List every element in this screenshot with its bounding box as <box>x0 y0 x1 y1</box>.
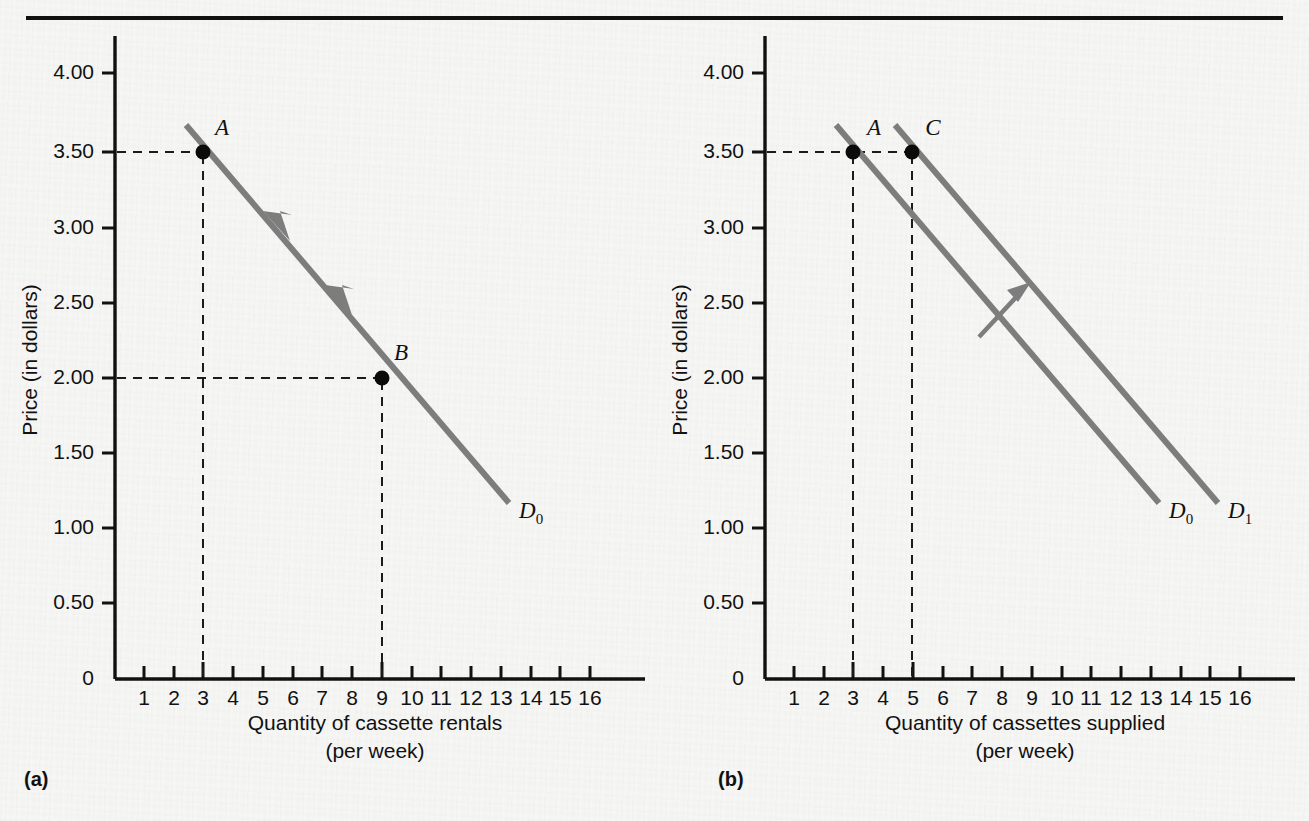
panel-a-guides <box>117 152 382 676</box>
panel-a-x-ticks: 1 2 3 4 5 6 7 8 9 10 11 12 13 1 <box>138 662 602 709</box>
panel-a-ytick-1.50: 1.50 <box>53 440 94 463</box>
panel-b-ytick-1.50: 1.50 <box>703 440 744 463</box>
panel-a-ytick-4.00: 4.00 <box>53 60 94 83</box>
panel-b-y-ticks: 4.00 3.50 3.00 2.50 2.00 1.50 1.00 0.50 … <box>703 60 765 689</box>
panel-a-ytick-3.00: 3.00 <box>53 215 94 238</box>
panel-b-xtick-6: 6 <box>937 686 949 709</box>
panel-a-ytick-2.00: 2.00 <box>53 365 94 388</box>
panel-a-xtick-14: 14 <box>519 686 543 709</box>
panel-b-xtick-11: 11 <box>1080 686 1102 709</box>
panel-b-x-axis-title-line2: (per week) <box>975 739 1074 762</box>
panel-a-x-axis-title-line2: (per week) <box>325 739 424 762</box>
panel-b-ytick-zero: 0 <box>732 666 744 689</box>
panel-a-xtick-4: 4 <box>227 686 239 709</box>
panel-b-xtick-8: 8 <box>996 686 1008 709</box>
panel-a-xtick-16: 16 <box>578 686 601 709</box>
panel-a-xtick-9: 9 <box>376 686 388 709</box>
panel-a-point-a-dot <box>196 145 211 160</box>
panel-b-xtick-12: 12 <box>1109 686 1132 709</box>
panel-b-x-ticks: 1 2 3 4 5 6 7 8 9 10 11 12 13 1 <box>788 662 1252 709</box>
panel-a-ytick-zero: 0 <box>82 666 94 689</box>
panel-b-ytick-3.00: 3.00 <box>703 215 744 238</box>
panel-a-ytick-1.00: 1.00 <box>53 515 94 538</box>
panel-b-xtick-5: 5 <box>907 686 919 709</box>
panel-b-point-a-label: A <box>865 115 882 140</box>
panel-a-caption: (a) <box>24 768 48 791</box>
panel-a-ytick-3.50: 3.50 <box>53 139 94 162</box>
panel-b-caption: (b) <box>718 768 744 791</box>
panel-a-xtick-6: 6 <box>287 686 299 709</box>
figure-container: 4.00 3.50 3.00 2.50 2.00 1.50 1.00 0.50 … <box>0 0 1309 821</box>
panel-b-xtick-9: 9 <box>1026 686 1038 709</box>
panel-a-y-axis-title: Price (in dollars) <box>18 284 41 436</box>
panel-b-ytick-0.50: 0.50 <box>703 590 744 613</box>
panel-a-ytick-0.50: 0.50 <box>53 590 94 613</box>
panel-b-xtick-10: 10 <box>1050 686 1073 709</box>
panel-b-point-c-dot <box>905 145 920 160</box>
panel-b-curve-label-d0: D0 <box>1168 498 1193 527</box>
panel-a-point-b-dot <box>375 371 390 386</box>
panel-b-ytick-4.00: 4.00 <box>703 60 744 83</box>
panel-b-ytick-2.00: 2.00 <box>703 365 744 388</box>
panel-b-x-axis-title-line1: Quantity of cassettes supplied <box>885 711 1165 734</box>
panel-b-curve-label-d1: D1 <box>1227 498 1252 527</box>
panel-a-x-axis-title-line1: Quantity of cassette rentals <box>248 711 502 734</box>
panel-a-xtick-11: 11 <box>430 686 452 709</box>
panel-a-demand-curve-d0 <box>186 125 509 503</box>
panel-a-xtick-2: 2 <box>168 686 180 709</box>
panel-b-xtick-14: 14 <box>1169 686 1193 709</box>
panel-a-point-b-label: B <box>394 340 408 365</box>
panel-a-xtick-8: 8 <box>346 686 358 709</box>
panel-b-xtick-16: 16 <box>1228 686 1251 709</box>
panel-b-xtick-1: 1 <box>788 686 800 709</box>
panel-b-ytick-3.50: 3.50 <box>703 139 744 162</box>
panel-b-demand-curve-d1 <box>895 125 1218 503</box>
chart-panel-b: 4.00 3.50 3.00 2.50 2.00 1.50 1.00 0.50 … <box>650 0 1309 821</box>
chart-panel-a: 4.00 3.50 3.00 2.50 2.00 1.50 1.00 0.50 … <box>0 0 660 821</box>
panel-a-arrow-head-2 <box>325 285 354 315</box>
panel-a-xtick-1: 1 <box>138 686 150 709</box>
panel-a-xtick-3: 3 <box>197 686 209 709</box>
panel-b-ytick-2.50: 2.50 <box>703 290 744 313</box>
panel-a-curve-label-d0: D0 <box>518 498 543 527</box>
panel-a-xtick-10: 10 <box>400 686 423 709</box>
panel-a-xtick-13: 13 <box>489 686 512 709</box>
panel-b-xtick-3: 3 <box>847 686 859 709</box>
panel-b-xtick-2: 2 <box>818 686 830 709</box>
panel-a-y-ticks: 4.00 3.50 3.00 2.50 2.00 1.50 1.00 0.50 … <box>53 60 115 689</box>
panel-a-xtick-12: 12 <box>459 686 482 709</box>
panel-a-point-a-label: A <box>213 115 230 140</box>
panel-b-point-c-label: C <box>925 115 941 140</box>
panel-b-shift-arrow <box>979 282 1031 337</box>
panel-b-xtick-13: 13 <box>1139 686 1162 709</box>
panel-a-ytick-2.50: 2.50 <box>53 290 94 313</box>
panel-b-xtick-7: 7 <box>966 686 978 709</box>
panel-b-ytick-1.00: 1.00 <box>703 515 744 538</box>
panel-b-point-a-dot <box>846 145 861 160</box>
panel-b-xtick-15: 15 <box>1198 686 1221 709</box>
panel-b-guides <box>767 152 912 676</box>
panel-a-xtick-5: 5 <box>257 686 269 709</box>
panel-a-xtick-15: 15 <box>548 686 571 709</box>
panel-b-y-axis-title: Price (in dollars) <box>668 284 691 436</box>
panel-b-xtick-4: 4 <box>877 686 889 709</box>
panel-a-xtick-7: 7 <box>316 686 328 709</box>
